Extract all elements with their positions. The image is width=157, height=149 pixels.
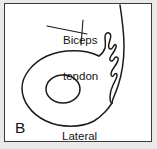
label-biceps-line1: Biceps <box>63 34 98 46</box>
label-lateral: Lateral <box>62 130 97 142</box>
label-biceps-tendon: Biceps tendon <box>63 10 98 107</box>
label-biceps-line2: tendon <box>63 70 98 82</box>
figure-panel-b: Biceps tendon B Lateral <box>4 3 152 142</box>
outer-cortical-arc <box>112 5 124 103</box>
panel-letter-b: B <box>15 120 26 136</box>
figure-root: Biceps tendon B Lateral <box>0 0 157 149</box>
